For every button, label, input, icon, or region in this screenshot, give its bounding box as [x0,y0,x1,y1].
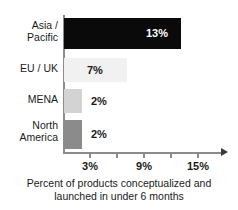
x-axis-tick-label-9: 9% [136,160,152,172]
x-axis-tick-label-15: 15% [187,160,209,172]
bar-value-asia-pacific: 13% [146,27,168,39]
category-label-mena: MENA [0,94,58,106]
category-axis-labels: Asia / Pacific EU / UK MENA North Americ… [0,0,58,160]
x-axis-tick [143,152,145,158]
category-label-line: EU / UK [0,63,58,75]
category-label-asia-pacific: Asia / Pacific [0,20,58,43]
bar-value-eu-uk: 7% [87,64,103,76]
chart-caption: Percent of products conceptualized and l… [0,177,238,203]
bar-north-america [64,120,82,149]
bar-value-north-america: 2% [91,128,107,140]
x-axis-tick [89,152,91,158]
category-label-north-america: North America [0,120,58,143]
plot-area: Asia / Pacific EU / UK MENA North Americ… [0,0,238,160]
category-label-line: North [0,120,58,132]
category-label-line: MENA [0,94,58,106]
x-axis-arrow-icon [221,148,228,156]
category-label-line: Asia / [0,20,58,32]
bar-value-mena: 2% [91,95,107,107]
category-label-eu-uk: EU / UK [0,63,58,75]
x-axis-tick [197,152,199,158]
x-axis-tick [170,152,172,158]
x-axis-tick-label-3: 3% [82,160,98,172]
chart-caption-line-1: Percent of products conceptualized and [0,177,238,190]
category-label-line: Pacific [0,32,58,44]
bar-mena [64,89,82,113]
x-axis-tick [116,152,118,158]
chart-caption-line-2: launched in under 6 months [0,190,238,203]
bar-chart-figure: Asia / Pacific EU / UK MENA North Americ… [0,0,238,210]
category-label-line: America [0,132,58,144]
